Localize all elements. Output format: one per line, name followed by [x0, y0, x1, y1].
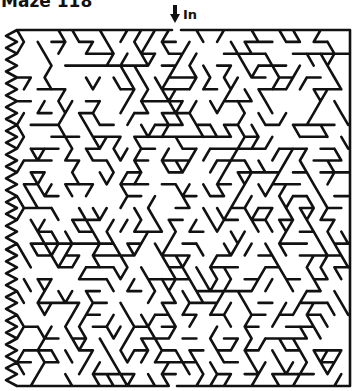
maze-walls [6, 30, 350, 386]
maze-board[interactable] [0, 0, 353, 391]
